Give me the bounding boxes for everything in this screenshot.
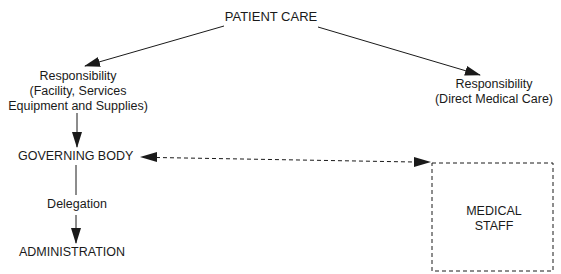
node-line: MEDICAL (452, 204, 536, 219)
arrow-patientcare-to-medical (318, 27, 480, 75)
responsibility-medical-node: Responsibility (Direct Medical Care) (424, 77, 561, 107)
node-line: Responsibility (0, 69, 158, 84)
node-line: Responsibility (424, 77, 561, 92)
administration-node: ADMINISTRATION (19, 245, 125, 260)
node-line: STAFF (452, 219, 536, 234)
arrowhead-left (140, 152, 157, 162)
patient-care-node: PATIENT CARE (220, 9, 322, 24)
node-line: (Direct Medical Care) (424, 92, 561, 107)
node-line: (Facility, Services (0, 84, 158, 99)
responsibility-facility-node: Responsibility (Facility, Services Equip… (0, 69, 158, 114)
delegation-label: Delegation (44, 197, 110, 212)
governing-body-node: GOVERNING BODY (18, 149, 133, 164)
node-line: Equipment and Supplies) (0, 99, 158, 114)
arrowhead-right (414, 157, 431, 167)
arrow-patientcare-to-facility (85, 26, 224, 66)
medical-staff-node: MEDICAL STAFF (452, 204, 536, 234)
dashed-arrow-governing-medical (156, 158, 414, 163)
